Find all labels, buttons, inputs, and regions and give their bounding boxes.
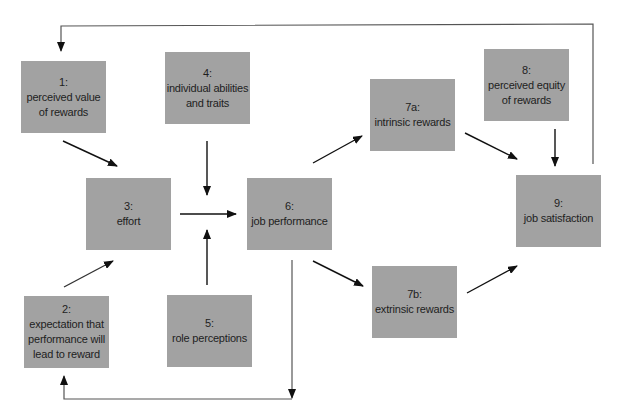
node-number: 7b: (407, 287, 422, 302)
node-label-line: perceived value (26, 90, 100, 105)
node-label-line: extrinsic rewards (375, 302, 454, 317)
node-number: 2: (62, 302, 71, 317)
node-6-job-performance: 6: job performance (247, 178, 332, 250)
arrow-7a-to-9 (465, 133, 517, 159)
node-label-line: individual abilities (167, 81, 249, 96)
node-5-role-perceptions: 5: role perceptions (167, 295, 252, 367)
node-label-line: expectation that (29, 317, 103, 332)
arrow-6-to-7b (313, 261, 363, 286)
arrow-6-to-7a (313, 136, 362, 163)
node-label-line: effort (117, 214, 141, 229)
node-label-line: lead to reward (33, 347, 100, 362)
node-label-line: and traits (186, 96, 229, 111)
node-label-line: perceived equity (488, 78, 565, 93)
node-3-effort: 3: effort (86, 178, 171, 250)
motivation-model-diagram: 1: perceived value of rewards 2: expecta… (0, 0, 621, 420)
node-label-line: intrinsic rewards (374, 115, 450, 130)
node-4-individual-abilities-and-traits: 4: individual abilities and traits (165, 52, 250, 124)
node-1-perceived-value-of-rewards: 1: perceived value of rewards (21, 61, 106, 133)
arrow-1-to-3 (63, 141, 117, 166)
node-label-line: of rewards (502, 93, 551, 108)
node-number: 4: (203, 66, 212, 81)
node-label-line: of rewards (39, 105, 88, 120)
node-label-line: job performance (251, 214, 328, 229)
node-number: 9: (554, 196, 563, 211)
node-number: 5: (205, 316, 214, 331)
node-number: 1: (59, 75, 68, 90)
node-label-line: job satisfaction (524, 211, 594, 226)
node-9-job-satisfaction: 9: job satisfaction (516, 175, 601, 247)
node-number: 7a: (405, 100, 420, 115)
arrow-7b-to-9 (467, 266, 517, 293)
node-7b-extrinsic-rewards: 7b: extrinsic rewards (372, 266, 457, 338)
node-number: 8: (522, 63, 531, 78)
feedback-6-to-2 (64, 376, 292, 399)
arrow-2-to-3 (64, 261, 113, 287)
node-number: 3: (124, 199, 133, 214)
node-7a-intrinsic-rewards: 7a: intrinsic rewards (370, 79, 455, 151)
node-label-line: role perceptions (172, 331, 247, 346)
node-label-line: performance will (28, 332, 105, 347)
node-2-expectation-performance-reward: 2: expectation that performance will lea… (24, 296, 109, 368)
node-8-perceived-equity-of-rewards: 8: perceived equity of rewards (484, 49, 569, 121)
node-number: 6: (285, 199, 294, 214)
